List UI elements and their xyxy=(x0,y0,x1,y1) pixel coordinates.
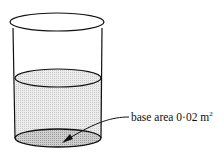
beaker-base xyxy=(15,129,101,147)
unit-exponent: 2 xyxy=(209,110,213,118)
beaker-left-wall xyxy=(13,28,15,138)
beaker-diagram xyxy=(0,0,223,154)
liquid-surface xyxy=(15,69,101,87)
base-area-text: base area 0·02 m xyxy=(131,111,209,123)
base-area-label: base area 0·02 m2 xyxy=(131,110,213,123)
beaker-rim xyxy=(10,13,104,31)
